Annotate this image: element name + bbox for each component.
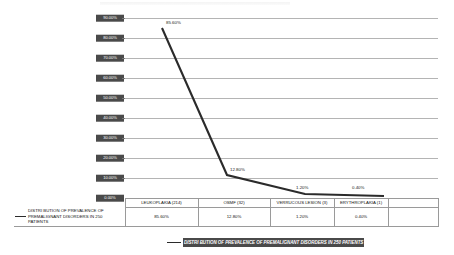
chart-legend: DISTRI BUTION OF PREVALENCE OF PREMALIGN…: [167, 238, 364, 247]
table-header-empty: [388, 199, 438, 208]
table-value-leukoplakia: 85.60%: [125, 207, 198, 226]
table-value-empty: [388, 207, 438, 226]
table-series-label: DISTRI BUTION OF PREVALENCE OF PREMALIGN…: [28, 208, 124, 225]
legend-label: DISTRI BUTION OF PREVALENCE OF PREMALIGN…: [183, 238, 364, 247]
series-polyline: [162, 28, 384, 196]
table-series-label-cell: DISTRI BUTION OF PREVALENCE OF PREMALIGN…: [14, 207, 125, 226]
chart-container: 90.00% 80.00% 70.00% 60.00% 50.00% 40.00…: [0, 0, 454, 255]
data-label-leukoplakia: 85.60%: [166, 20, 181, 26]
table-row: DISTRI BUTION OF PREVALENCE OF PREMALIGN…: [14, 207, 438, 226]
data-label-erythroplakia: 0.40%: [352, 185, 364, 191]
data-label-osmf: 12.80%: [230, 167, 245, 173]
table-header-verrucous: VERRUCOUS LESION (3): [270, 199, 334, 208]
data-label-verrucous: 1.20%: [296, 185, 308, 191]
table-value-osmf: 12.80%: [198, 207, 270, 226]
chart-data-table: LEUKOPLAKIA (214) OSMF (32) VERRUCOUS LE…: [14, 198, 439, 227]
legend-swatch-icon: [167, 242, 181, 244]
table-corner-cell: [14, 199, 125, 208]
table-header-leukoplakia: LEUKOPLAKIA (214): [125, 199, 198, 208]
table-value-verrucous: 1.20%: [270, 207, 334, 226]
series-swatch-icon: [15, 216, 26, 218]
table-header-osmf: OSMF (32): [198, 199, 270, 208]
table-header-row: LEUKOPLAKIA (214) OSMF (32) VERRUCOUS LE…: [14, 199, 438, 208]
table-header-erythroplakia: ERYTHROPLAKIA (1): [334, 199, 388, 208]
table-value-erythroplakia: 0.40%: [334, 207, 388, 226]
